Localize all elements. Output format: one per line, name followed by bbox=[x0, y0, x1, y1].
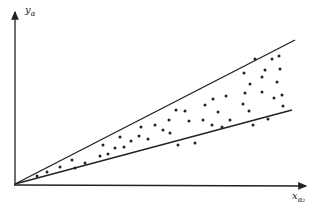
scatter-point bbox=[140, 126, 143, 129]
scatter-point bbox=[147, 138, 150, 141]
scatter-point bbox=[36, 175, 39, 178]
scatter-point bbox=[162, 129, 165, 132]
upper-boundary-line bbox=[15, 40, 295, 184]
scatter-point bbox=[254, 58, 257, 61]
scatter-point bbox=[194, 142, 197, 145]
scatter-point bbox=[74, 167, 77, 170]
scatter-point bbox=[282, 105, 285, 108]
scatter-point bbox=[271, 58, 274, 61]
x-axis bbox=[14, 185, 306, 186]
scatter-point bbox=[175, 109, 178, 112]
scatter-point bbox=[229, 119, 232, 122]
scatter-point bbox=[169, 132, 172, 135]
scatter-point bbox=[184, 110, 187, 113]
scatter-point bbox=[217, 111, 220, 114]
x-axis-label: xα₂ bbox=[292, 190, 305, 204]
scatter-point bbox=[249, 83, 252, 86]
scatter-point bbox=[221, 126, 224, 129]
scatter-point bbox=[188, 120, 191, 123]
scatter-point bbox=[99, 155, 102, 158]
scatter-point bbox=[71, 159, 74, 162]
scatter-point bbox=[107, 153, 110, 156]
scatter-point bbox=[168, 119, 171, 122]
scatter-point bbox=[279, 68, 282, 71]
scatter-point bbox=[177, 144, 180, 147]
scatter-point bbox=[102, 144, 105, 147]
scatter-point bbox=[264, 69, 267, 72]
scatter-point bbox=[114, 147, 117, 150]
scatter-point bbox=[273, 97, 276, 100]
scatter-point bbox=[261, 76, 264, 79]
scatter-point bbox=[248, 110, 251, 113]
scatter-point bbox=[212, 98, 215, 101]
scatter-point bbox=[154, 124, 157, 127]
scatter-point bbox=[243, 72, 246, 75]
wedge-diagram: yα xα₂ bbox=[0, 0, 324, 208]
scatter-point bbox=[261, 91, 264, 94]
scatter-point bbox=[119, 136, 122, 139]
scatter-point bbox=[123, 146, 126, 149]
scatter-point bbox=[84, 162, 87, 165]
scatter-point bbox=[211, 124, 214, 127]
scatter-points bbox=[36, 55, 285, 178]
scatter-point bbox=[278, 55, 281, 58]
scatter-point bbox=[46, 171, 49, 174]
diagram-canvas bbox=[0, 0, 324, 208]
scatter-point bbox=[281, 94, 284, 97]
scatter-point bbox=[252, 124, 255, 127]
scatter-point bbox=[138, 135, 141, 138]
scatter-point bbox=[59, 166, 62, 169]
scatter-point bbox=[130, 140, 133, 143]
scatter-point bbox=[276, 81, 279, 84]
scatter-point bbox=[202, 119, 205, 122]
lower-boundary-line bbox=[15, 110, 292, 184]
scatter-point bbox=[242, 103, 245, 106]
scatter-point bbox=[244, 92, 247, 95]
y-axis-label: yα bbox=[25, 4, 35, 18]
scatter-point bbox=[225, 95, 228, 98]
scatter-point bbox=[267, 118, 270, 121]
scatter-point bbox=[204, 104, 207, 107]
